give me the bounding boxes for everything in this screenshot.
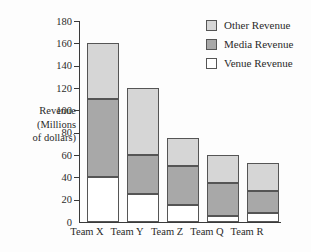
bar-team-y-venue-revenue[interactable]: [127, 194, 159, 222]
bar-team-q-venue-revenue[interactable]: [207, 216, 239, 222]
bar-team-y-other-revenue[interactable]: [127, 88, 159, 155]
y-tick-label-180: 180: [46, 16, 72, 27]
bar-team-x-other-revenue[interactable]: [87, 43, 119, 99]
bar-team-r-media-revenue[interactable]: [247, 191, 279, 213]
bar-team-x-media-revenue[interactable]: [87, 99, 119, 177]
y-tick-label-60: 60: [46, 150, 72, 161]
y-tick-0: [79, 222, 80, 223]
y-tick-label-100: 100: [46, 105, 72, 116]
y-tick-label-160: 160: [46, 38, 72, 49]
chart-legend: Other Revenue Media Revenue Venue Revenu…: [206, 17, 293, 74]
bar-team-q-other-revenue[interactable]: [207, 155, 239, 183]
bar-team-x-venue-revenue[interactable]: [87, 177, 119, 222]
legend-item-other-revenue[interactable]: Other Revenue: [206, 17, 293, 33]
legend-item-venue-revenue[interactable]: Venue Revenue: [206, 55, 293, 71]
bar-team-z-other-revenue[interactable]: [167, 138, 199, 166]
y-tick-label-120: 120: [46, 83, 72, 94]
legend-label-other-revenue: Other Revenue: [224, 19, 290, 31]
legend-item-media-revenue[interactable]: Media Revenue: [206, 36, 293, 52]
legend-swatch-media-revenue: [206, 39, 217, 50]
bar-team-y-media-revenue[interactable]: [127, 155, 159, 194]
y-tick-label-140: 140: [46, 60, 72, 71]
bar-team-r-venue-revenue[interactable]: [247, 213, 279, 222]
bar-team-r-other-revenue[interactable]: [247, 163, 279, 191]
legend-label-media-revenue: Media Revenue: [224, 38, 293, 50]
legend-label-venue-revenue: Venue Revenue: [224, 57, 293, 69]
y-tick-label-80: 80: [46, 127, 72, 138]
x-axis-line: [79, 222, 281, 223]
legend-swatch-venue-revenue: [206, 58, 217, 69]
y-tick-label-20: 20: [46, 194, 72, 205]
bar-team-z-venue-revenue[interactable]: [167, 205, 199, 222]
x-tick-label-team-r: Team R: [223, 226, 271, 238]
y-tick-label-40: 40: [46, 172, 72, 183]
bar-team-z-media-revenue[interactable]: [167, 166, 199, 205]
legend-swatch-other-revenue: [206, 20, 217, 31]
stacked-bar-chart: Revenue (Millions of dollars) 180 160 14…: [0, 0, 311, 252]
bar-team-q-media-revenue[interactable]: [207, 183, 239, 217]
